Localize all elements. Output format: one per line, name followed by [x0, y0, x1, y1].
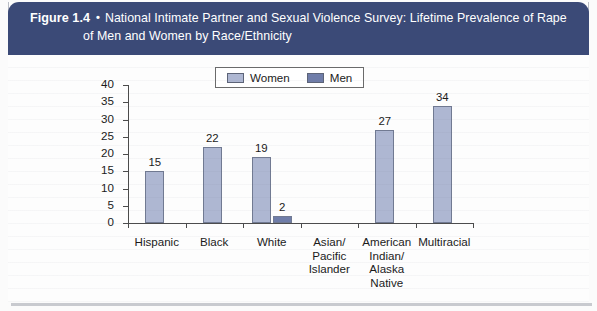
- x-axis-tick: [416, 223, 417, 228]
- y-axis-tick: 5: [123, 206, 128, 207]
- y-axis-tick: 25: [123, 137, 128, 138]
- figure-frame-shadow: [11, 303, 592, 306]
- y-axis-tick-label: 5: [108, 198, 114, 211]
- bar-value-label: 22: [193, 132, 232, 144]
- bar-women: [252, 157, 271, 223]
- figure-title-line2: of Men and Women by Race/Ethnicity: [30, 28, 573, 46]
- bar-women: [203, 147, 222, 223]
- legend-entry-men: Men: [307, 71, 353, 84]
- y-axis-tick-label: 20: [101, 146, 114, 159]
- bar-value-label: 34: [423, 91, 462, 103]
- figure-caption: Figure 1.4•National Intimate Partner and…: [30, 10, 573, 45]
- y-axis-tick-label: 35: [101, 94, 114, 107]
- y-axis-tick-label: 30: [101, 112, 114, 125]
- caption-bullet-icon: •: [90, 11, 105, 23]
- bar-value-label: 2: [263, 201, 302, 213]
- y-axis-tick: 20: [123, 154, 128, 155]
- legend-label-men: Men: [330, 71, 353, 84]
- y-axis-tick: 40: [123, 85, 128, 86]
- y-axis-tick: 30: [123, 120, 128, 121]
- figure-title-line1: National Intimate Partner and Sexual Vio…: [105, 11, 567, 25]
- legend-label-women: Women: [250, 71, 290, 84]
- bar-women: [375, 130, 394, 223]
- figure-caption-band: Figure 1.4•National Intimate Partner and…: [8, 2, 589, 55]
- y-axis-tick-label: 10: [101, 181, 114, 194]
- x-axis-tick: [186, 223, 187, 228]
- x-axis-tick: [358, 223, 359, 228]
- y-axis-line: [128, 85, 129, 223]
- y-axis-tick: 15: [123, 171, 128, 172]
- y-axis-tick-label: 25: [101, 129, 114, 142]
- legend-swatch-women-icon: [227, 73, 244, 83]
- bar-value-label: 27: [365, 115, 404, 127]
- y-axis-tick-label: 15: [101, 163, 114, 176]
- legend-entry-women: Women: [227, 71, 290, 84]
- bar-men: [273, 216, 292, 223]
- bar-women: [145, 171, 164, 223]
- figure-number: Figure 1.4: [30, 11, 90, 25]
- x-axis-tick: [243, 223, 244, 228]
- y-axis-tick: 35: [123, 102, 128, 103]
- y-axis-tick-label: 0: [108, 215, 114, 228]
- bar-women: [433, 106, 452, 223]
- y-axis-tick-label: 40: [101, 77, 114, 90]
- x-axis-tick: [473, 223, 474, 228]
- x-axis-category-label: Multiracial: [402, 235, 488, 249]
- bar-value-label: 15: [135, 156, 174, 168]
- x-axis-tick: [301, 223, 302, 228]
- bar-value-label: 19: [242, 142, 281, 154]
- x-axis-tick: [128, 223, 129, 228]
- legend-swatch-men-icon: [307, 73, 324, 83]
- plot-area: 0510152025303540Hispanic15Black22White19…: [128, 85, 473, 223]
- y-axis-tick: 10: [123, 189, 128, 190]
- chart-area: Women Men 0510152025303540Hispanic15Blac…: [8, 55, 589, 302]
- figure-container: Figure 1.4•National Intimate Partner and…: [0, 0, 597, 311]
